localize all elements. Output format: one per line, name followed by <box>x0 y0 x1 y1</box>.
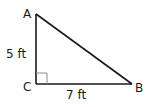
right-angle-marker <box>36 73 47 84</box>
vertex-label-a: A <box>23 8 31 20</box>
side-label-ac: 5 ft <box>6 48 26 60</box>
vertex-label-c: C <box>23 81 31 93</box>
side-ab-hypotenuse <box>36 14 132 84</box>
vertex-label-b: B <box>135 82 143 94</box>
side-label-cb: 7 ft <box>66 89 86 101</box>
